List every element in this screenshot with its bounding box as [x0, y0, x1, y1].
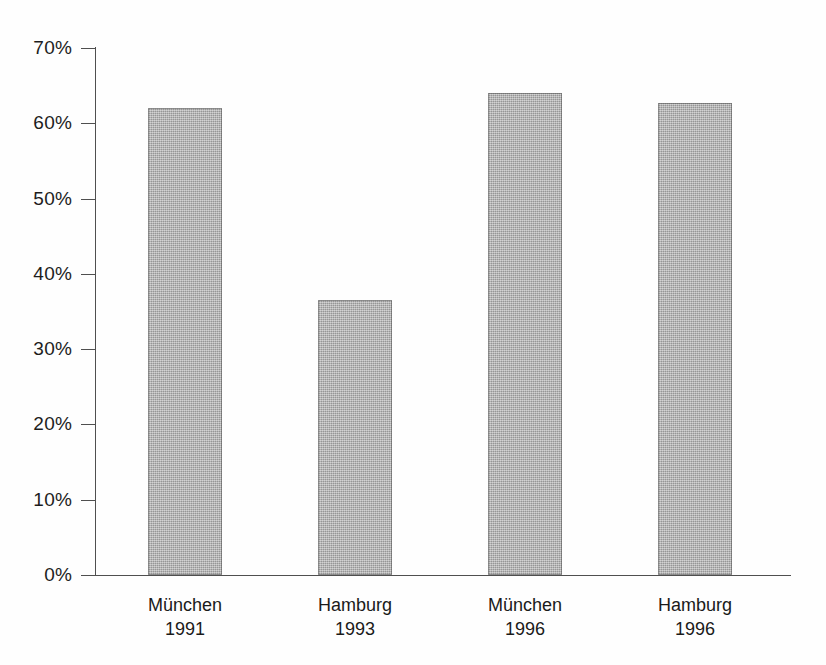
bar	[148, 108, 222, 575]
x-axis-category-label: Hamburg1993	[265, 593, 445, 641]
y-axis-tick-mark	[81, 424, 95, 425]
x-axis-category-year: 1996	[605, 617, 785, 641]
bar	[658, 103, 732, 575]
bar	[488, 93, 562, 575]
x-axis-category-city: Hamburg	[605, 593, 785, 617]
x-axis-category-year: 1991	[95, 617, 275, 641]
y-axis-tick-label: 30%	[0, 338, 72, 360]
y-axis-tick-mark	[81, 123, 95, 124]
x-axis-category-year: 1996	[435, 617, 615, 641]
y-axis-tick-label: 40%	[0, 263, 72, 285]
x-axis-category-label: München1991	[95, 593, 275, 641]
y-axis-tick-label: 10%	[0, 489, 72, 511]
y-axis-tick-label: 70%	[0, 37, 72, 59]
y-axis-tick-mark	[81, 349, 95, 350]
x-axis-category-label: Hamburg1996	[605, 593, 785, 641]
x-axis-category-city: München	[435, 593, 615, 617]
y-axis-tick-label: 60%	[0, 112, 72, 134]
y-axis-tick-mark	[81, 48, 95, 49]
y-axis-tick-label: 0%	[0, 564, 72, 586]
y-axis-tick-mark	[81, 274, 95, 275]
x-axis-category-label: München1996	[435, 593, 615, 641]
bar-chart: 70%60%50%40%30%20%10%0% München1991Hambu…	[0, 0, 826, 665]
plot-area	[95, 48, 790, 575]
y-axis-tick-mark	[81, 575, 95, 576]
x-axis-category-year: 1993	[265, 617, 445, 641]
x-axis-line	[95, 575, 791, 576]
bar	[318, 300, 392, 575]
x-axis-category-city: Hamburg	[265, 593, 445, 617]
y-axis-tick-mark	[81, 199, 95, 200]
x-axis-category-city: München	[95, 593, 275, 617]
y-axis-tick-label: 20%	[0, 413, 72, 435]
y-axis-tick-mark	[81, 500, 95, 501]
y-axis-tick-label: 50%	[0, 188, 72, 210]
